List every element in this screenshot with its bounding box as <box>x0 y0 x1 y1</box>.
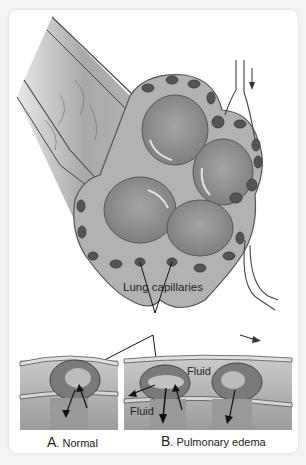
fluid-label-top: Fluid <box>187 365 211 377</box>
panel-a-letter: A <box>47 434 56 450</box>
panel-a-caption: A. Normal <box>47 434 98 450</box>
panel-b-text: . Pulmonary edema <box>170 436 265 448</box>
alveoli-illustration <box>0 0 306 465</box>
lung-capillaries-label: Lung capillaries <box>123 281 203 293</box>
panel-a-normal <box>20 356 118 430</box>
arrow-head-icon <box>249 82 255 90</box>
fluid-label-bottom: Fluid <box>130 405 154 417</box>
panel-a-text: . Normal <box>56 437 98 449</box>
panel-b-caption: B. Pulmonary edema <box>161 433 266 449</box>
panel-b-letter: B <box>161 433 170 449</box>
